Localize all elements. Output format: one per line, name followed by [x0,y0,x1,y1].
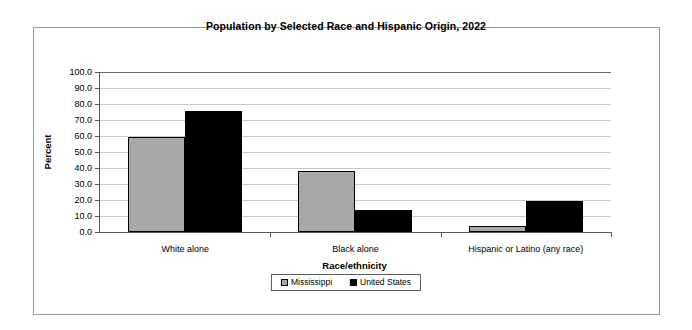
legend-item-united-states: United States [350,278,411,287]
y-axis-tick-label: 50.0 [52,147,92,157]
plot-area: 100.090.080.070.060.050.040.030.020.010.… [99,72,611,233]
x-axis-tick [611,232,612,237]
y-axis-tick-label: 10.0 [52,211,92,221]
x-axis-title: Race/ethnicity [99,260,610,271]
chart-legend: Mississippi United States [271,274,421,291]
x-axis-category-label: Hispanic or Latino (any race) [468,244,583,254]
y-axis-tick-label: 30.0 [52,179,92,189]
y-axis-tick-label: 20.0 [52,195,92,205]
x-axis-tick [441,232,442,237]
bar-group [441,72,611,232]
legend-swatch-icon-mississippi [281,279,288,286]
y-axis-tick-label: 60.0 [52,131,92,141]
y-axis-tick-label: 90.0 [52,83,92,93]
bar-united-states[interactable] [526,201,583,232]
bar-mississippi[interactable] [298,171,355,232]
y-axis-tick-label: 0.0 [52,227,92,237]
y-axis-title: Percent [42,135,53,170]
legend-label-united-states: United States [360,278,411,287]
y-axis-tick-label: 40.0 [52,163,92,173]
y-axis-tick-label: 70.0 [52,115,92,125]
x-axis-category-label: White alone [161,244,209,254]
bar-group [270,72,440,232]
bar-united-states[interactable] [185,111,242,232]
legend-label-mississippi: Mississippi [291,278,332,287]
y-axis-tick [95,232,100,233]
bar-mississippi[interactable] [128,137,185,232]
y-axis-tick-label: 80.0 [52,99,92,109]
bar-mississippi[interactable] [469,226,526,232]
legend-item-mississippi: Mississippi [281,278,332,287]
bar-united-states[interactable] [355,210,412,232]
x-axis-category-label: Black alone [332,244,379,254]
bar-group [100,72,270,232]
x-axis-tick [270,232,271,237]
y-axis-tick-label: 100.0 [52,67,92,77]
chart-title: Population by Selected Race and Hispanic… [0,20,692,32]
legend-swatch-icon-united-states [350,279,357,286]
